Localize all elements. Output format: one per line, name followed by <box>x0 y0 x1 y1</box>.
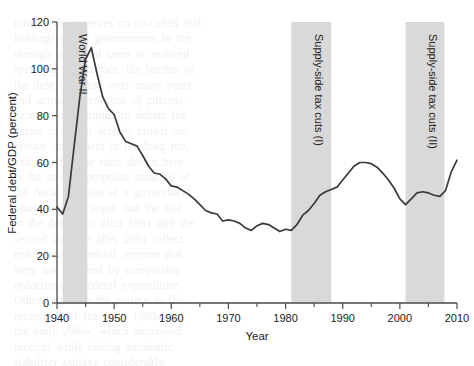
x-tick-label: 1990 <box>330 312 354 324</box>
x-axis-title: Year <box>245 330 268 342</box>
shaded-band-label: World War II <box>77 34 89 95</box>
shaded-period-bands <box>63 22 445 303</box>
x-tick-label: 1980 <box>273 312 297 324</box>
shaded-band-label: Supply-side tax cuts (I) <box>313 34 325 146</box>
y-tick-label: 100 <box>31 63 49 75</box>
x-tick-label: 1960 <box>159 312 183 324</box>
y-tick-label: 20 <box>37 250 49 262</box>
debt-gdp-series-line <box>57 48 457 232</box>
shaded-band-label: Supply-side tax cuts (II) <box>427 34 439 149</box>
figure-container: now to the reserves on so-called realhol… <box>0 0 474 366</box>
x-tick-label: 2010 <box>445 312 469 324</box>
shaded-period-band-labels: World War IISupply-side tax cuts (I)Supp… <box>77 34 439 149</box>
x-tick-label: 2000 <box>388 312 412 324</box>
x-axis-tick-labels: 19401950196019701980199020002010 <box>45 312 469 324</box>
y-tick-label: 40 <box>37 203 49 215</box>
debt-to-gdp-line-chart: World War IISupply-side tax cuts (I)Supp… <box>0 0 474 366</box>
x-tick-label: 1950 <box>102 312 126 324</box>
y-axis-tick-labels: 020406080100120 <box>31 16 49 309</box>
y-tick-label: 0 <box>43 297 49 309</box>
y-axis-title: Federal debt/GDP (percent) <box>6 92 18 234</box>
x-tick-label: 1940 <box>45 312 69 324</box>
x-tick-label: 1970 <box>216 312 240 324</box>
y-axis-ticks <box>52 22 57 303</box>
y-tick-label: 60 <box>37 157 49 169</box>
y-tick-label: 80 <box>37 110 49 122</box>
y-tick-label: 120 <box>31 16 49 28</box>
